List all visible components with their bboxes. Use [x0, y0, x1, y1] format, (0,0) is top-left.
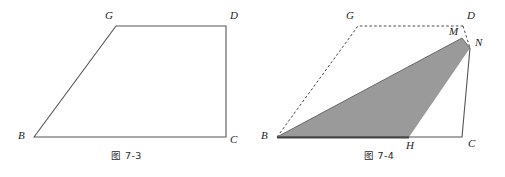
vertex-label-b: B: [18, 130, 25, 141]
vertex-label-d: D: [230, 10, 238, 21]
figure-7-4: G D M N B H C 图 7-4: [253, 0, 505, 177]
vertex-label-c: C: [468, 138, 475, 149]
vertex-label-n: N: [475, 37, 482, 48]
vertex-label-d: D: [467, 10, 475, 21]
vertex-label-c: C: [230, 134, 237, 145]
vertex-label-m: M: [449, 26, 458, 37]
figure-7-3: G D B C 图 7-3: [0, 0, 253, 177]
vertex-label-g: G: [105, 10, 113, 21]
trapezoid-bgdc: [34, 26, 226, 137]
figure-caption-7-4: 图 7-4: [253, 151, 505, 161]
shaded-triangle-bmh: [277, 38, 470, 137]
vertex-label-g: G: [346, 10, 354, 21]
figure-caption-7-3: 图 7-3: [0, 151, 253, 161]
vertex-label-b: B: [261, 130, 268, 141]
figure-sheet: G D B C 图 7-3 G D M N B H C 图 7-4: [0, 0, 505, 177]
vertex-label-h: H: [406, 140, 414, 151]
